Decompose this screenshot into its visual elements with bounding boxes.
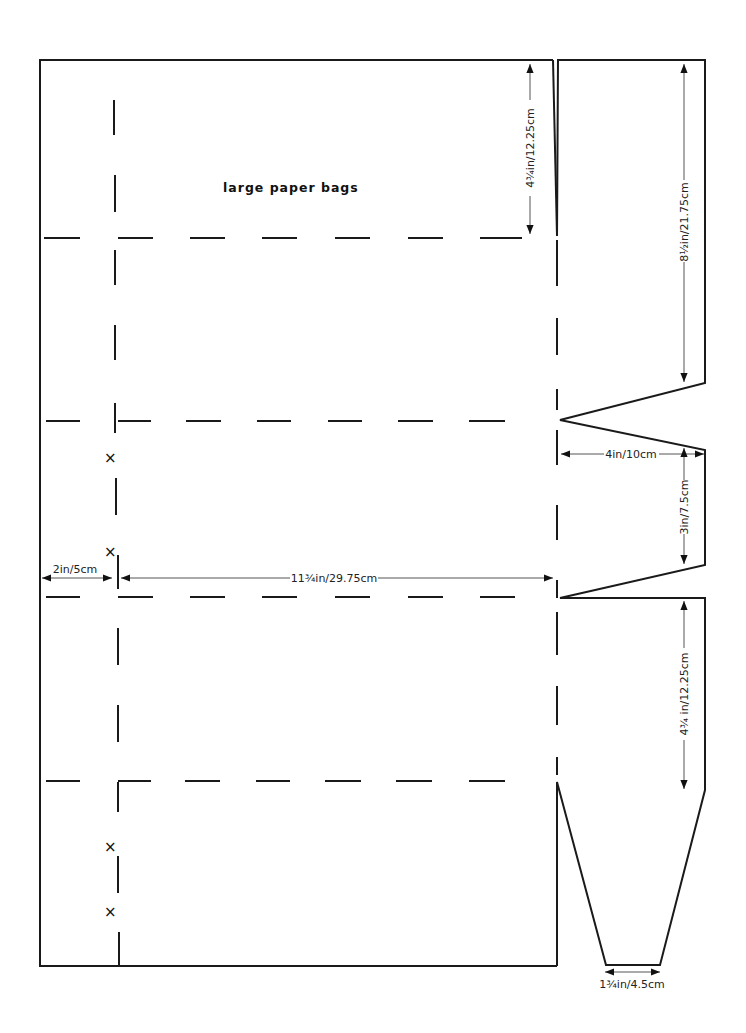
cross-mark: × <box>104 838 117 856</box>
main-panel-outline <box>40 60 557 966</box>
dimension-top-left-flap: 4¾in/12.25cm <box>524 64 537 234</box>
dim-label: 2in/5cm <box>53 563 98 576</box>
dim-label: 4¾in/12.25cm <box>524 108 537 188</box>
paper-bag-pattern: large paper bags × × × × 4¾in/12.25cm 8½… <box>0 0 746 1033</box>
dimension-gusset-width: 4in/10cm <box>561 448 704 461</box>
dimension-seam-allowance: 2in/5cm <box>42 563 112 578</box>
dim-label: 8½in/21.75cm <box>678 182 691 262</box>
dim-label: 1¾in/4.5cm <box>599 978 665 991</box>
cross-mark: × <box>104 543 117 561</box>
cross-mark: × <box>104 449 117 467</box>
dimension-bag-width: 11¾in/29.75cm <box>121 572 553 585</box>
dimension-base-tab: 1¾in/4.5cm <box>599 972 665 991</box>
dim-label: 4¾ in/12.25cm <box>678 652 691 735</box>
dimension-gusset-height: 3in/7.5cm <box>678 448 691 564</box>
left-fold-line <box>114 100 119 966</box>
dimension-right-bottom-panel: 4¾ in/12.25cm <box>678 601 691 789</box>
pattern-title: large paper bags <box>223 180 359 195</box>
dimension-right-top-panel: 8½in/21.75cm <box>678 64 691 382</box>
cross-mark: × <box>104 903 117 921</box>
dim-label: 4in/10cm <box>605 448 657 461</box>
dim-label: 11¾in/29.75cm <box>291 572 378 585</box>
dim-label: 3in/7.5cm <box>678 480 691 535</box>
